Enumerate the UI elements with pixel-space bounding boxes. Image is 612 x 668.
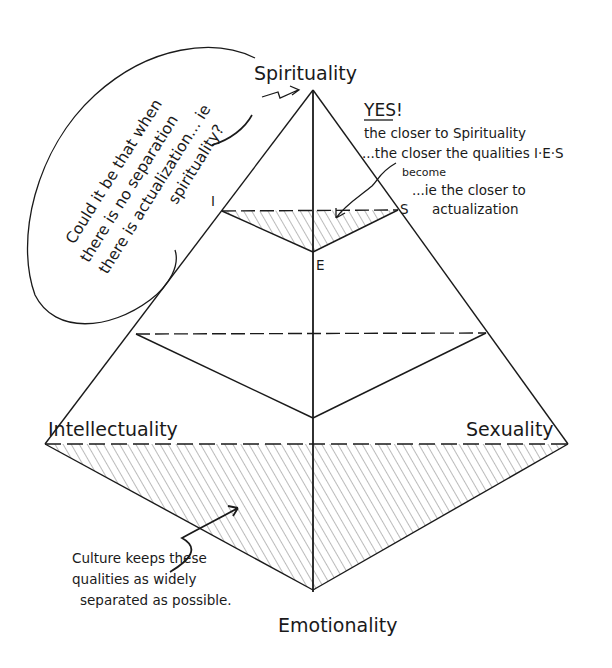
note-line-3: become [402, 166, 446, 179]
shaded-top-region [222, 210, 398, 252]
note-heading-yes: YES! [363, 100, 403, 120]
label-spirituality: Spirituality [254, 62, 357, 84]
pyramid-diagram: Could it be that when there is no separa… [0, 0, 612, 668]
note-line-1: the closer to Spirituality [364, 125, 526, 141]
culture-line-3: separated as possible. [80, 592, 232, 608]
bubble-arrow [262, 86, 299, 98]
label-emotionality: Emotionality [278, 614, 397, 636]
label-s: S [400, 201, 409, 217]
label-i: I [211, 193, 215, 209]
culture-line-1: Culture keeps these [72, 550, 207, 566]
note-line-2: ...the closer the qualities I·E·S [362, 145, 564, 161]
label-intellectuality: Intellectuality [48, 418, 178, 440]
label-sexuality: Sexuality [466, 418, 554, 440]
label-e: E [316, 257, 325, 273]
shaded-base-region [45, 444, 568, 590]
culture-line-2: qualities as widely [72, 571, 197, 587]
note-line-5: actualization [432, 201, 519, 217]
bubble-text: Could it be that when there is no separa… [58, 78, 233, 289]
note-line-4: ...ie the closer to [412, 182, 526, 198]
note-bottom-left: Culture keeps these qualities as widely … [72, 550, 232, 608]
